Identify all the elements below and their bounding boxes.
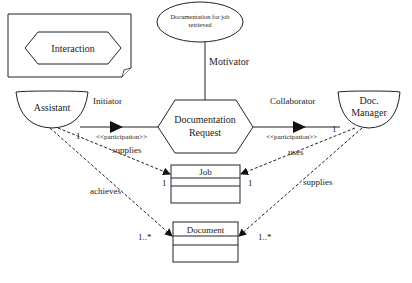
document-class-name: Document [187,225,225,235]
mult-manager-job-source: 1 [332,124,337,134]
actor-doc-manager: Doc. Manager [338,91,400,128]
class-document: Document [173,222,238,262]
supplies-label-right: supplies [303,177,333,187]
mult-manager-document-target: 1..* [258,232,272,242]
mult-assistant-job-target: 1 [162,178,167,188]
interaction-line1: Documentation [174,114,236,125]
assoc-manager-supplies-document: supplies 1..* [239,128,362,242]
mult-assistant-document-target: 1..* [138,232,152,242]
class-job: Job [171,165,240,203]
diagram-canvas: Interaction Documentation for job retrie… [0,0,412,283]
achieves-label: achieves [90,186,121,196]
goal-line2: retrieved [188,21,212,28]
doc-manager-line1: Doc. [359,95,378,106]
collaborator-stereotype: <<participation>> [266,133,317,141]
legend-note: Interaction [8,14,131,77]
initiator-stereotype: <<participation>> [96,133,147,141]
assistant-label: Assistant [34,102,71,113]
mult-manager-job-target: 1 [248,178,253,188]
collaborator-arrow-icon [293,121,306,133]
interaction-documentation-request: Documentation Request [158,100,253,153]
assoc-assistant-achieves-document: achieves 1..* [50,128,172,242]
initiator-arrow-icon [110,121,123,133]
motivator-goal: Documentation for job retrieved [157,2,243,42]
job-class-name: Job [199,167,212,177]
uses-label: uses [288,147,304,157]
initiator-label: Initiator [93,96,122,106]
supplies-label-left: supplies [112,145,142,155]
actor-assistant: Assistant [16,91,88,128]
motivator-label: Motivator [209,56,250,67]
interaction-line2: Request [189,127,221,138]
goal-line1: Documentation for job [170,13,229,20]
collaborator-label: Collaborator [270,96,316,106]
doc-manager-line2: Manager [351,107,387,118]
legend-label: Interaction [51,43,94,54]
mult-assistant-job-source: 1 [76,131,81,141]
